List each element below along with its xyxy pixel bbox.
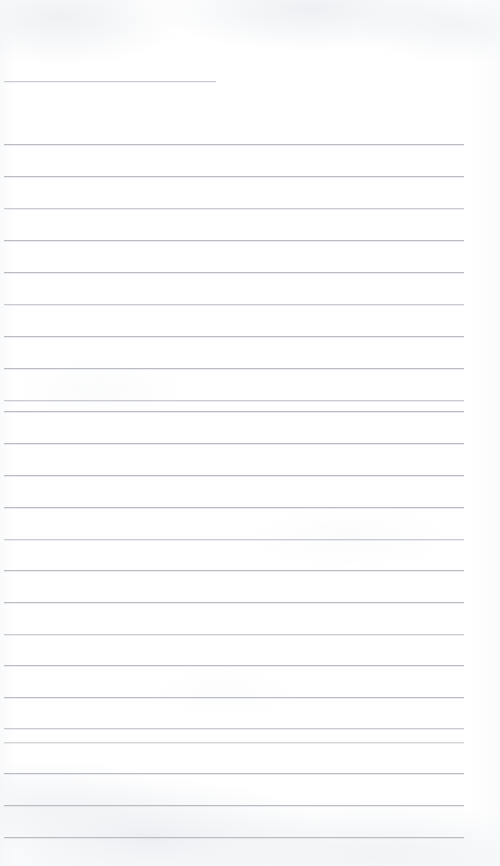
ruling-line	[4, 475, 464, 476]
ruling-line	[4, 400, 464, 401]
ruling-line	[4, 728, 464, 729]
ruling-line	[4, 240, 464, 241]
ruling-line	[4, 411, 464, 412]
ruling-line	[4, 773, 464, 774]
ruling-line-short	[4, 81, 216, 82]
ruling-line	[4, 144, 464, 145]
ruling-line	[4, 304, 464, 305]
ruling-line	[4, 507, 464, 508]
ruling-line	[4, 443, 464, 444]
ruling-line	[4, 368, 464, 369]
paper-texture-top	[0, 0, 500, 866]
ruling-line	[4, 805, 464, 806]
ruling-line	[4, 272, 464, 273]
ruling-line	[4, 602, 464, 603]
paper-texture-edges	[0, 0, 500, 866]
ruling-line	[4, 570, 464, 571]
ruling-line	[4, 742, 464, 743]
paper-texture-mottle	[0, 0, 500, 866]
ruling-line	[4, 634, 464, 635]
ruling-line	[4, 336, 464, 337]
ruling-line	[4, 665, 464, 666]
paper-texture-bottom	[0, 0, 500, 866]
scanned-page	[0, 0, 500, 866]
ruling-line	[4, 176, 464, 177]
ruling-line	[4, 208, 464, 209]
ruling-line	[4, 539, 464, 540]
ruling-line	[4, 697, 464, 698]
ruling-line	[4, 837, 464, 838]
